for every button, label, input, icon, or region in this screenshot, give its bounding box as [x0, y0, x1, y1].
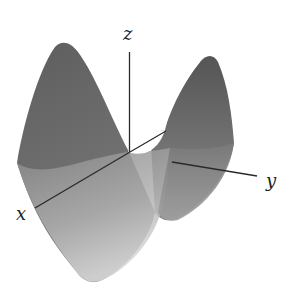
- saddle-diagram: z y x: [0, 0, 286, 289]
- y-axis-label: y: [265, 170, 277, 191]
- surface-right-lobe: [158, 143, 234, 221]
- x-axis-label: x: [16, 203, 26, 224]
- z-axis-label: z: [122, 23, 133, 44]
